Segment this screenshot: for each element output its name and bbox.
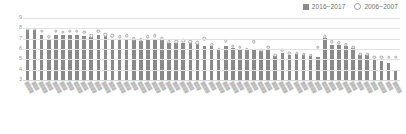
legend-item-2006-2007[interactable]: 2006~2007 bbox=[354, 3, 398, 10]
bar bbox=[231, 48, 235, 80]
x-axis-label: ▓▓▓▓ bbox=[88, 80, 95, 128]
x-axis-label: ▓▓▓ bbox=[272, 80, 279, 128]
bar bbox=[61, 35, 65, 80]
x-axis-label: ▓▓▓▓ bbox=[321, 80, 328, 128]
x-axis-label: ▓▓▓▓ bbox=[24, 80, 31, 128]
x-axis-label: ▓▓▓▓ bbox=[307, 80, 314, 128]
x-axis-label: ▓▓▓ bbox=[208, 80, 215, 128]
chart-container: 2016~2017 2006~2007 9876543 ▓▓▓▓▓▓▓▓▓▓▓▓… bbox=[0, 0, 406, 134]
bar bbox=[380, 61, 384, 80]
legend-label: 2016~2017 bbox=[312, 3, 346, 10]
x-axis-label: ▓▓▓▓ bbox=[215, 80, 222, 128]
bar bbox=[238, 49, 242, 80]
x-axis-label: ▓▓▓ bbox=[173, 80, 180, 128]
x-axis-label: ▓▓▓ bbox=[286, 80, 293, 128]
data-point-marker bbox=[75, 30, 78, 33]
data-point-marker bbox=[68, 30, 71, 33]
x-axis-label: ▓▓▓▓ bbox=[392, 80, 399, 128]
y-axis-tick: 8 bbox=[19, 26, 22, 32]
data-point-marker bbox=[153, 34, 156, 37]
x-axis-label: ▓▓▓ bbox=[222, 80, 229, 128]
chart-legend: 2016~2017 2006~2007 bbox=[0, 3, 406, 10]
bar bbox=[259, 51, 263, 80]
data-point-marker bbox=[82, 31, 85, 34]
x-axis-label: ▓▓▓ bbox=[335, 80, 342, 128]
x-axis-label: ▓▓▓ bbox=[300, 80, 307, 128]
gridline bbox=[23, 59, 400, 60]
x-axis-label: ▓▓▓ bbox=[59, 80, 66, 128]
x-axis-label: ▓▓▓ bbox=[66, 80, 73, 128]
x-axis-label: ▓▓▓ bbox=[328, 80, 335, 128]
gridline bbox=[23, 49, 400, 50]
y-axis-tick: 9 bbox=[19, 15, 22, 21]
bar bbox=[139, 41, 143, 80]
bar bbox=[344, 46, 348, 80]
x-axis-label: ▓▓▓▓ bbox=[74, 80, 81, 128]
bar bbox=[210, 46, 214, 80]
gridline bbox=[23, 39, 400, 40]
plot-grid bbox=[23, 18, 400, 81]
bar bbox=[40, 35, 44, 80]
bar bbox=[245, 50, 249, 80]
bar bbox=[351, 48, 355, 80]
y-axis: 9876543 bbox=[14, 18, 22, 80]
x-axis-label: ▓▓▓ bbox=[109, 80, 116, 128]
x-axis-label: ▓▓▓ bbox=[187, 80, 194, 128]
data-point-marker bbox=[111, 34, 114, 37]
x-axis-label: ▓▓▓▓ bbox=[201, 80, 208, 128]
x-axis-label: ▓▓▓▓ bbox=[279, 80, 286, 128]
x-axis-label: ▓▓▓▓ bbox=[180, 80, 187, 128]
gridline bbox=[23, 18, 400, 19]
data-point-marker bbox=[40, 30, 43, 33]
bar bbox=[330, 45, 334, 80]
x-axis-label: ▓▓▓▓ bbox=[137, 80, 144, 128]
bar bbox=[89, 37, 93, 80]
y-axis-tick: 7 bbox=[19, 36, 22, 42]
data-point-marker bbox=[125, 34, 128, 37]
bar bbox=[97, 35, 101, 80]
gridline bbox=[23, 70, 400, 71]
x-axis-label: ▓▓▓▓ bbox=[229, 80, 236, 128]
x-axis-label: ▓▓▓ bbox=[357, 80, 364, 128]
gridline bbox=[23, 28, 400, 29]
x-axis-labels: ▓▓▓▓▓▓▓▓▓▓▓▓▓▓▓▓▓▓▓▓▓▓▓▓▓▓▓▓▓▓▓▓▓▓▓▓▓▓▓▓… bbox=[23, 80, 400, 128]
bar bbox=[316, 57, 320, 80]
x-axis-label: ▓▓▓▓ bbox=[343, 80, 350, 128]
x-axis-label: ▓▓▓▓ bbox=[38, 80, 45, 128]
x-axis-label: ▓▓▓ bbox=[45, 80, 52, 128]
y-axis-tick: 3 bbox=[19, 77, 22, 83]
x-axis-label: ▓▓▓ bbox=[144, 80, 151, 128]
bar bbox=[394, 70, 398, 80]
x-axis-label: ▓▓▓ bbox=[251, 80, 258, 128]
x-axis-label: ▓▓▓ bbox=[31, 80, 38, 128]
plot-area: 9876543 bbox=[14, 18, 400, 80]
x-axis-label: ▓▓▓▓ bbox=[378, 80, 385, 128]
y-axis-tick: 5 bbox=[19, 57, 22, 63]
bar bbox=[54, 35, 58, 80]
x-axis-label: ▓▓▓▓ bbox=[52, 80, 59, 128]
x-axis-label: ▓▓▓ bbox=[158, 80, 165, 128]
x-axis-label: ▓▓▓ bbox=[130, 80, 137, 128]
bar bbox=[203, 46, 207, 80]
data-point-marker bbox=[330, 40, 333, 43]
x-axis-label: ▓▓▓ bbox=[123, 80, 130, 128]
legend-item-2016-2017[interactable]: 2016~2017 bbox=[303, 3, 346, 10]
x-axis-label: ▓▓▓ bbox=[314, 80, 321, 128]
x-axis-label: ▓▓▓▓ bbox=[102, 80, 109, 128]
data-point-marker bbox=[97, 30, 100, 33]
x-axis-label: ▓▓▓ bbox=[350, 80, 357, 128]
data-point-marker bbox=[54, 30, 57, 33]
bar bbox=[266, 49, 270, 80]
x-axis-label: ▓▓▓▓ bbox=[243, 80, 250, 128]
bar bbox=[295, 54, 299, 80]
bar bbox=[217, 50, 221, 80]
bar bbox=[68, 35, 72, 80]
bar bbox=[281, 53, 285, 80]
bar bbox=[104, 35, 108, 80]
bar bbox=[387, 63, 391, 80]
bar bbox=[337, 45, 341, 80]
y-axis-tick: 6 bbox=[19, 46, 22, 52]
x-axis-label: ▓▓▓ bbox=[194, 80, 201, 128]
x-axis-label: ▓▓▓▓ bbox=[151, 80, 158, 128]
bar bbox=[224, 46, 228, 80]
